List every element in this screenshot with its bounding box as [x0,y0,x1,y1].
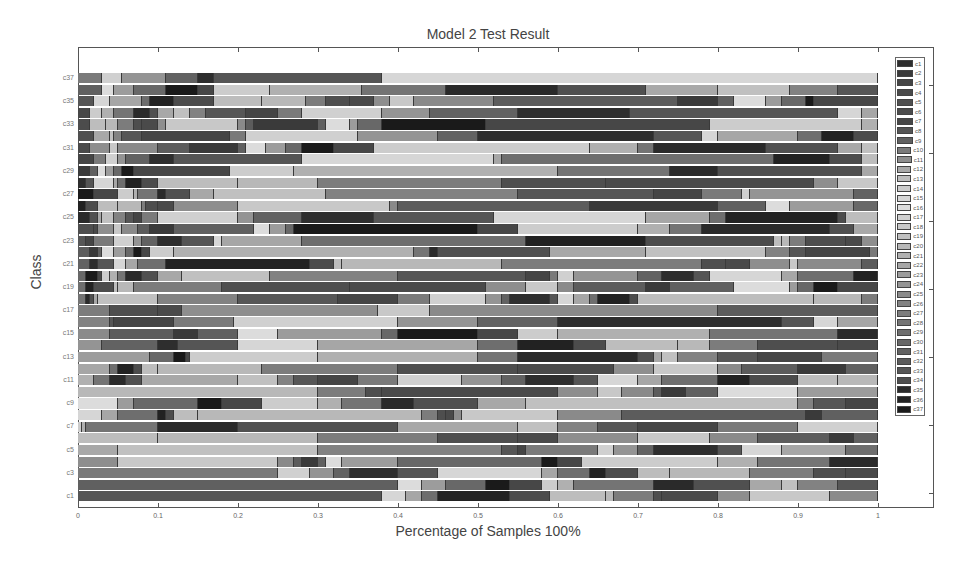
legend-label: c18 [913,224,923,230]
bar-segment [110,143,118,153]
bar-segment [78,468,278,478]
legend-swatch [897,339,911,346]
y-tick-label: c5 [44,446,74,453]
bar-segment [78,433,158,443]
bar-segment [90,212,98,222]
bar-segment [310,259,334,269]
bar-segment [78,387,318,397]
bar-segment [638,445,654,455]
legend-label: c4 [915,90,921,96]
legend-label: c20 [913,243,923,249]
bar-segment [302,236,526,246]
bar-segment [334,468,350,478]
bar-segment [214,73,382,83]
bar-segment [478,340,518,350]
bar-segment [718,131,798,141]
bar-segment [662,375,718,385]
bar-segment [606,340,678,350]
legend-swatch [897,291,911,298]
bar-segment [254,212,302,222]
bar-c17 [78,305,878,315]
bar-segment [118,445,318,455]
bar-segment [398,375,462,385]
bar-segment [502,445,518,455]
bar-segment [90,259,98,269]
legend-swatch [897,166,911,173]
bar-segment [114,166,122,176]
bar-segment [102,271,110,281]
bar-segment [342,457,398,467]
bar-segment [486,480,510,490]
legend-item: c8 [897,126,923,136]
bar-c11 [78,375,878,385]
bar-segment [78,480,398,490]
right-tick-mark [929,85,934,86]
legend-item: c32 [897,356,923,366]
bar-segment [270,224,286,234]
bar-segment [558,387,598,397]
x-tick-mark [798,503,799,508]
bar-segment [766,96,782,106]
bar-segment [830,491,878,501]
x-tick-label: 0.3 [313,512,323,519]
bar-segment [78,108,90,118]
bar-segment [638,352,654,362]
bar-c9 [78,398,878,408]
bar-segment [790,282,798,292]
bar-segment [302,212,374,222]
bar-segment [190,143,238,153]
bar-segment [862,166,878,176]
bar-segment [174,108,190,118]
bar-segment [142,247,150,257]
bar-segment [518,422,558,432]
bar-segment [222,236,302,246]
bar-segment [838,375,878,385]
legend-label: c25 [913,291,923,297]
bar-segment [598,422,638,432]
x-tick-label: 0.7 [633,512,643,519]
bar-segment [486,282,526,292]
bar-segment [526,375,574,385]
bar-segment [422,491,438,501]
x-tick-mark [238,47,239,52]
bar-segment [78,96,94,106]
x-tick-mark [478,503,479,508]
bar-segment [98,294,158,304]
bar-segment [558,468,590,478]
bar-segment [114,131,122,141]
bar-segment [214,96,262,106]
bar-segment [78,410,102,420]
bar-segment [142,96,150,106]
bar-segment [638,433,710,443]
bar-segment [654,480,694,490]
bar-segment [398,317,478,327]
legend-label: c9 [915,138,921,144]
legend-item: c3 [897,78,923,88]
legend-label: c37 [913,406,923,412]
bar-segment [294,375,318,385]
bar-segment [174,224,254,234]
bar-segment [326,189,518,199]
bar-segment [262,96,306,106]
stacked-bars [78,73,878,503]
bar-segment [86,271,98,281]
bar-segment [174,201,238,211]
bar-segment [254,224,270,234]
bar-segment [654,491,662,501]
x-tick-label: 0.4 [393,512,403,519]
bar-segment [710,340,758,350]
bar-segment [398,457,542,467]
bar-segment [798,398,814,408]
bar-segment [614,491,654,501]
bar-c7 [78,422,878,432]
y-tick-label: c25 [44,213,74,220]
bar-c19 [78,282,878,292]
bar-segment [558,480,574,490]
bar-segment [502,154,774,164]
legend-item: c4 [897,88,923,98]
bar-segment [526,445,598,455]
bar-segment [78,491,382,501]
legend-label: c34 [913,377,923,383]
bar-segment [174,247,414,257]
legend-label: c35 [913,387,923,393]
